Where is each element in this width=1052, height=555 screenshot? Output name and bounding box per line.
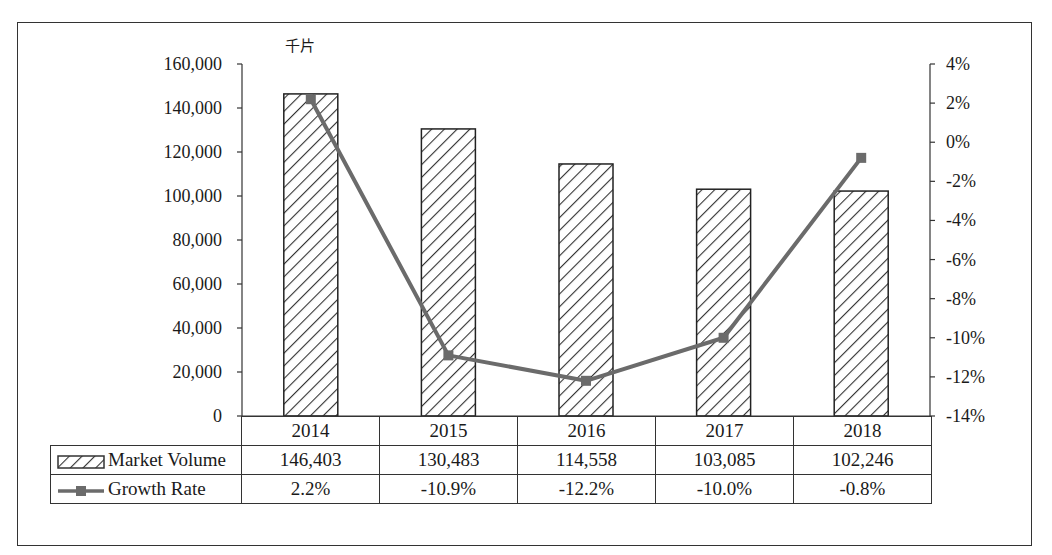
left-tick-label: 80,000 <box>173 230 223 250</box>
value-cell: -10.9% <box>380 475 518 504</box>
left-tick-label: 160,000 <box>164 54 223 74</box>
value-cell: -0.8% <box>794 475 932 504</box>
value-cell: 102,246 <box>794 446 932 475</box>
right-tick-label: -2% <box>946 171 976 191</box>
right-tick-label: -10% <box>946 328 985 348</box>
unit-label: 千片 <box>285 37 315 55</box>
category-2015: 2015 <box>380 417 518 446</box>
line-marker-legend-icon <box>57 484 105 498</box>
right-axis: -14%-12%-10%-8%-6%-4%-2%0%2%4% <box>930 54 985 426</box>
table-header-row: 2014 2015 2016 2017 2018 <box>51 417 932 446</box>
square-marker-icon <box>306 94 316 104</box>
bar-series-market-volume <box>242 94 930 416</box>
left-tick-label: 120,000 <box>164 142 223 162</box>
legend-label-market-volume: Market Volume <box>108 449 226 470</box>
left-tick-label: 40,000 <box>173 318 223 338</box>
square-marker-icon <box>856 153 866 163</box>
table-row-growth-rate: Growth Rate 2.2% -10.9% -12.2% -10.0% -0… <box>51 475 932 504</box>
right-tick-label: -4% <box>946 210 976 230</box>
square-marker-icon <box>443 350 453 360</box>
left-tick-label: 100,000 <box>164 186 223 206</box>
right-tick-label: -14% <box>946 406 985 426</box>
value-cell: 130,483 <box>380 446 518 475</box>
left-tick-label: 60,000 <box>173 274 223 294</box>
value-cell: -10.0% <box>656 475 794 504</box>
legend-label-growth-rate: Growth Rate <box>108 478 206 499</box>
table-corner <box>51 417 242 446</box>
right-tick-label: -12% <box>946 367 985 387</box>
category-2014: 2014 <box>242 417 380 446</box>
bar <box>421 129 475 416</box>
value-cell: 146,403 <box>242 446 380 475</box>
right-tick-label: 0% <box>946 132 970 152</box>
square-marker-icon <box>581 376 591 386</box>
bar <box>834 191 888 416</box>
right-tick-label: -8% <box>946 289 976 309</box>
value-cell: 114,558 <box>518 446 656 475</box>
square-marker-icon <box>719 333 729 343</box>
value-cell: 103,085 <box>656 446 794 475</box>
data-table: 2014 2015 2016 2017 2018 Market Volume 1… <box>50 416 932 504</box>
hatched-bar-legend-icon <box>57 455 105 469</box>
right-tick-label: 4% <box>946 54 970 74</box>
left-tick-label: 20,000 <box>173 362 223 382</box>
bar <box>284 94 338 416</box>
value-cell: 2.2% <box>242 475 380 504</box>
table-row-market-volume: Market Volume 146,403 130,483 114,558 10… <box>51 446 932 475</box>
right-tick-label: -6% <box>946 250 976 270</box>
value-cell: -12.2% <box>518 475 656 504</box>
bar <box>697 189 751 416</box>
category-2017: 2017 <box>656 417 794 446</box>
left-axis: 020,00040,00060,00080,000100,000120,0001… <box>164 54 243 426</box>
legend-market-volume: Market Volume <box>51 446 242 475</box>
category-2018: 2018 <box>794 417 932 446</box>
right-tick-label: 2% <box>946 93 970 113</box>
legend-growth-rate: Growth Rate <box>51 475 242 504</box>
category-2016: 2016 <box>518 417 656 446</box>
left-tick-label: 140,000 <box>164 98 223 118</box>
